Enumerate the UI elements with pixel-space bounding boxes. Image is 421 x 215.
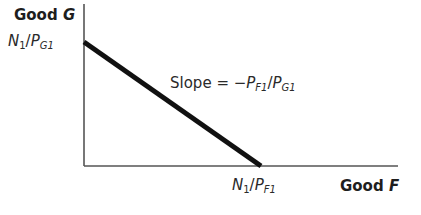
p-subscript: F1 xyxy=(264,184,276,195)
y-axis-label: Good G xyxy=(14,6,75,24)
p-symbol: P xyxy=(255,176,264,194)
budget-line xyxy=(84,42,261,166)
p-subscript: G1 xyxy=(282,82,296,93)
x-axis-label-text: Good xyxy=(340,177,389,195)
y-axis-variable: G xyxy=(63,6,75,24)
y-intercept-label: N1/PG1 xyxy=(8,32,54,51)
x-axis-label: Good F xyxy=(340,177,399,195)
x-intercept-label: N1/PF1 xyxy=(232,176,276,195)
y-axis-label-text: Good xyxy=(14,6,63,24)
p-subscript: G1 xyxy=(40,40,54,51)
slope-prefix: Slope = − xyxy=(170,74,246,92)
p-subscript: F1 xyxy=(255,82,267,93)
p-symbol: P xyxy=(273,74,282,92)
n-symbol: N xyxy=(8,32,19,50)
n-symbol: N xyxy=(232,176,243,194)
x-axis-variable: F xyxy=(389,177,399,195)
p-symbol: P xyxy=(246,74,255,92)
p-symbol: P xyxy=(31,32,40,50)
slope-annotation: Slope = −PF1/PG1 xyxy=(170,74,296,93)
